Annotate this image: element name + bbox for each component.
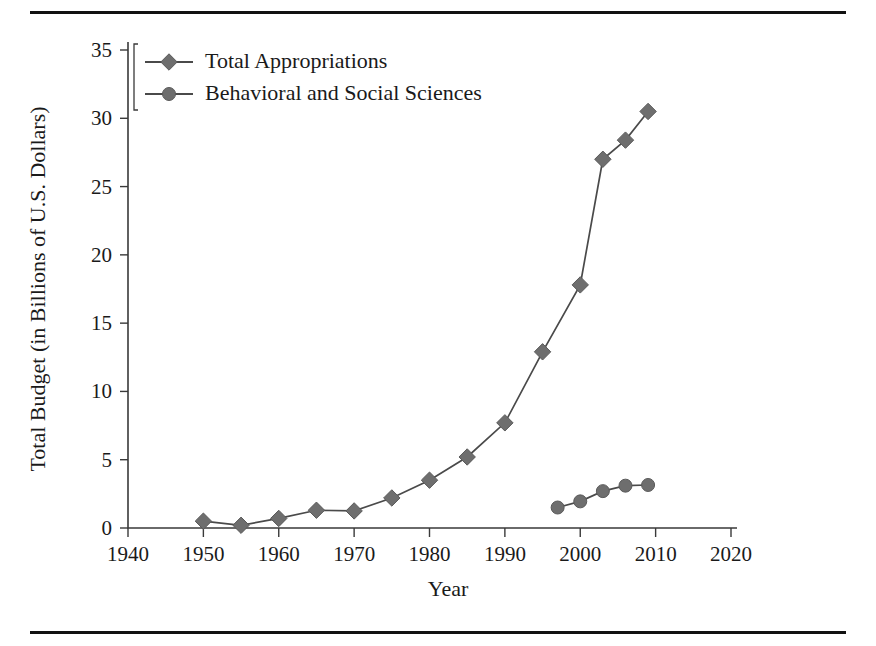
figure-container: 05101520253035 1940195019601970198019902… (0, 0, 876, 646)
line-chart: 05101520253035 1940195019601970198019902… (0, 0, 876, 646)
x-tick-label: 2000 (559, 542, 601, 566)
data-point-diamond (233, 517, 249, 533)
data-point-diamond (572, 277, 588, 293)
y-tick-label: 30 (91, 106, 112, 130)
x-tick-labels: 194019501960197019801990200020102020 (107, 542, 752, 566)
y-tick-label: 15 (91, 311, 112, 335)
legend-bracket (134, 44, 138, 110)
chart-legend: Total AppropriationsBehavioral and Socia… (134, 44, 482, 110)
data-point-diamond (195, 513, 211, 529)
x-tick-label: 1950 (182, 542, 224, 566)
x-tick-label: 1980 (409, 542, 451, 566)
y-tick-labels: 05101520253035 (91, 38, 112, 540)
series-1 (195, 103, 656, 533)
data-point-diamond (308, 502, 324, 518)
data-point-diamond (534, 344, 550, 360)
legend-marker-circle (163, 88, 176, 101)
x-tick-label: 2010 (635, 542, 677, 566)
data-point-diamond (271, 510, 287, 526)
data-point-circle (642, 478, 655, 491)
data-point-circle (574, 495, 587, 508)
y-axis-title: Total Budget (in Billions of U.S. Dollar… (25, 106, 50, 471)
data-point-circle (619, 479, 632, 492)
series-2 (551, 478, 654, 514)
data-series (195, 103, 656, 533)
y-axis-ticks (120, 50, 128, 528)
series-line (203, 111, 648, 525)
data-point-diamond (346, 503, 362, 519)
x-tick-label: 1990 (484, 542, 526, 566)
data-point-circle (551, 501, 564, 514)
legend-item-1: Total Appropriations (145, 48, 387, 73)
x-tick-label: 1940 (107, 542, 149, 566)
y-tick-label: 0 (102, 516, 113, 540)
y-tick-label: 10 (91, 379, 112, 403)
x-tick-label: 2020 (710, 542, 752, 566)
x-tick-label: 1970 (333, 542, 375, 566)
y-tick-label: 5 (102, 448, 113, 472)
y-tick-label: 25 (91, 175, 112, 199)
data-point-diamond (640, 103, 656, 119)
x-axis-title: Year (428, 576, 469, 601)
data-point-circle (596, 485, 609, 498)
legend-item-2: Behavioral and Social Sciences (145, 80, 482, 105)
data-point-diamond (421, 472, 437, 488)
y-tick-label: 20 (91, 243, 112, 267)
legend-marker-diamond (161, 54, 177, 70)
legend-label: Behavioral and Social Sciences (205, 80, 482, 105)
x-tick-label: 1960 (258, 542, 300, 566)
x-axis-ticks (128, 528, 731, 537)
legend-label: Total Appropriations (205, 48, 387, 73)
y-tick-label: 35 (91, 38, 112, 62)
data-point-diamond (384, 490, 400, 506)
